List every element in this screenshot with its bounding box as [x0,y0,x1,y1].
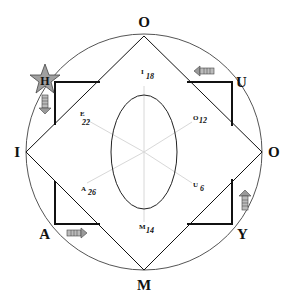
diagram: O O M I U A Y H I [0,0,288,304]
label-top-right: U [236,74,247,90]
arrow-down-icon [39,95,51,114]
svg-text:I: I [141,68,144,76]
svg-text:U: U [193,181,198,189]
svg-text:6: 6 [200,184,204,193]
svg-text:12: 12 [199,116,207,125]
inner-label-m: M 14 [139,223,154,235]
arrow-right-icon [67,228,87,238]
label-bottom: M [137,277,151,293]
label-bottom-right: Y [237,226,248,242]
inner-label-e: E 22 [80,110,90,127]
inner-label-i: I 18 [141,68,154,81]
label-bottom-left: A [39,226,50,242]
svg-text:26: 26 [87,188,96,197]
svg-text:E: E [80,110,85,118]
svg-text:18: 18 [146,72,154,81]
label-right: O [268,144,280,160]
label-left: I [14,144,20,160]
svg-text:M: M [139,223,146,231]
arrow-left-icon [194,66,214,76]
arrow-up-icon [239,190,251,210]
svg-text:22: 22 [81,118,90,127]
inner-label-u: U 6 [193,181,204,193]
inner-label-a: A 26 [81,185,96,197]
label-top: O [138,14,150,30]
svg-text:14: 14 [146,226,154,235]
label-top-left: H [40,74,50,88]
corner-bracket-h [55,82,100,125]
svg-text:A: A [81,185,86,193]
inner-label-o: O 12 [193,114,207,125]
spokes [87,86,192,222]
